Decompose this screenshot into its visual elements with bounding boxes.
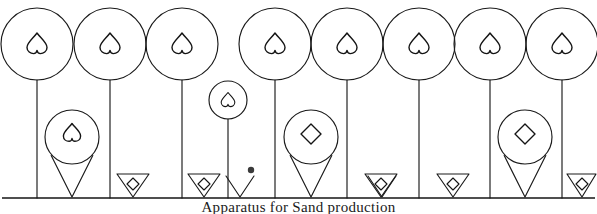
- ground-dot-group: [248, 167, 254, 173]
- funnel-unit-2: [284, 110, 338, 197]
- ground-triangle-4: [437, 174, 469, 197]
- ground-triangle-group: [117, 174, 596, 197]
- ground-triangle-3: [365, 174, 397, 197]
- stem-group: [37, 80, 562, 198]
- plain-cone-group: [226, 176, 396, 197]
- figure-canvas: Apparatus for Sand production: [0, 0, 597, 214]
- figure-drawing: [0, 0, 597, 214]
- head-heart-glyphs: [27, 33, 572, 54]
- ground-triangle-5: [567, 174, 596, 197]
- funnel-unit-1: [45, 110, 99, 197]
- ground-triangle-1: [117, 174, 149, 197]
- ground-triangle-2: [188, 174, 220, 197]
- small-head-unit: [209, 81, 247, 119]
- figure-caption: Apparatus for Sand production: [0, 200, 597, 214]
- head-circles-group: [1, 8, 597, 80]
- funnel-unit-3: [498, 110, 552, 197]
